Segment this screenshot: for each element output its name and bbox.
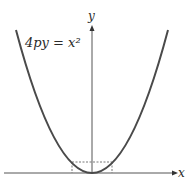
equation-label: 4py = x² (24, 35, 81, 50)
parabola-diagram: 4py = x² y x (0, 0, 193, 181)
x-axis-label: x (178, 166, 185, 180)
y-axis-label: y (87, 9, 95, 23)
y-axis-arrow-icon (90, 25, 95, 31)
